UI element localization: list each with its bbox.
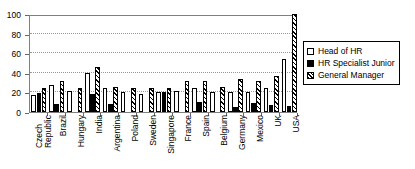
bar-group (155, 16, 173, 112)
legend-item: General Manager (307, 69, 395, 81)
hatched-square-icon (307, 72, 314, 79)
bar-group (209, 16, 227, 112)
bar (31, 95, 36, 112)
bar (197, 102, 202, 112)
x-tick-label-line1: Poland (130, 115, 140, 141)
bar (246, 92, 251, 112)
bar (185, 81, 190, 112)
x-tick-label-line1: Mexico (255, 115, 265, 142)
x-tick-label: Sweden (149, 115, 158, 146)
bar (233, 107, 238, 112)
bar-group (173, 16, 191, 112)
x-tick-label: Spain (202, 115, 211, 137)
bar (228, 92, 233, 112)
bar (256, 81, 261, 112)
bar (131, 88, 136, 113)
legend-label: HR Specialist Junior (318, 59, 395, 68)
x-tick-label: USA (292, 115, 301, 132)
bar (203, 81, 208, 112)
bar (274, 76, 279, 112)
x-tick-label: Argentina (113, 115, 122, 151)
y-tick-label-60: 60 (12, 50, 21, 59)
x-tick-label: Germany (238, 115, 247, 150)
bar (139, 94, 144, 112)
white-square-icon (307, 48, 314, 55)
bar (113, 87, 118, 112)
bar (251, 103, 256, 112)
y-tick-label-0: 0 (16, 109, 21, 118)
chart-legend: Head of HRHR Specialist JuniorGeneral Ma… (303, 41, 400, 85)
black-square-icon (307, 60, 314, 67)
bars-layer (30, 16, 296, 112)
x-tick-label-line2: Republic (44, 115, 53, 148)
x-tick-label-line1: Argentina (112, 115, 122, 151)
bar-group (191, 16, 209, 112)
x-tick-label: UK (274, 115, 283, 127)
x-tick-label: Brazil (59, 115, 68, 136)
bar (49, 85, 54, 112)
bar (42, 88, 47, 112)
x-tick-label: Singapore (167, 115, 176, 154)
x-tick-label: France (184, 115, 193, 141)
x-tick-label: Belgium (220, 115, 229, 146)
x-tick-label: Mexico (256, 115, 265, 142)
y-axis: 020406080100 (0, 15, 25, 113)
bar (103, 88, 108, 112)
bar (60, 81, 65, 112)
bar (162, 92, 167, 112)
y-tick-label-80: 80 (12, 30, 21, 39)
x-tick-label-line1: Singapore (166, 115, 176, 154)
x-tick-label: CzechRepublic (35, 115, 53, 148)
bar (174, 91, 179, 112)
bar-group (280, 16, 298, 112)
x-tick-label: India (95, 115, 104, 133)
bar (156, 92, 161, 112)
bar-group (84, 16, 102, 112)
x-tick-label-line1: Hungary (76, 115, 86, 147)
bar-group (48, 16, 66, 112)
bar (287, 106, 292, 112)
y-tick-label-40: 40 (12, 70, 21, 79)
legend-item: HR Specialist Junior (307, 57, 395, 69)
bar-group (101, 16, 119, 112)
x-tick-label-line1: India (94, 115, 104, 133)
bar (90, 94, 95, 112)
x-tick-label: Poland (131, 115, 140, 141)
bar-group (66, 16, 84, 112)
bar (192, 88, 197, 113)
plot-inner (30, 16, 296, 112)
x-tick-label-line1: USA (291, 115, 301, 132)
x-tick-label-line1: Spain (201, 115, 211, 137)
bar (95, 67, 100, 112)
y-tick-label-100: 100 (7, 11, 21, 20)
x-tick-label-line1: France (183, 115, 193, 141)
x-tick-label: Hungary (77, 115, 86, 147)
bar (108, 104, 113, 112)
x-tick-label-line1: Sweden (148, 115, 158, 146)
bar-group (227, 16, 245, 112)
y-tick-label-20: 20 (12, 89, 21, 98)
bar (282, 59, 287, 112)
bar-group (119, 16, 137, 112)
bar (54, 104, 59, 112)
x-tick-label-line1: UK (273, 115, 283, 127)
bar (149, 88, 154, 112)
bar-chart: 020406080100 CzechRepublicBrazilHungaryI… (0, 0, 415, 169)
bar (292, 14, 297, 112)
bar (220, 87, 225, 112)
bar (238, 79, 243, 112)
bar (67, 91, 72, 112)
bar (210, 92, 215, 112)
bar (167, 88, 172, 113)
legend-label: General Manager (318, 71, 384, 80)
bar-group (137, 16, 155, 112)
x-tick-label-line1: Germany (237, 115, 247, 150)
plot-area (29, 15, 297, 113)
bar (121, 92, 126, 112)
bar (37, 93, 42, 112)
legend-label: Head of HR (318, 47, 362, 56)
bar (269, 105, 274, 112)
bar-group (244, 16, 262, 112)
bar (85, 73, 90, 112)
bar (78, 88, 83, 113)
